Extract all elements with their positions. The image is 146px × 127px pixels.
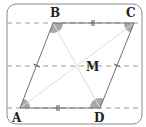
label-b: B bbox=[50, 6, 60, 20]
label-d: D bbox=[94, 111, 104, 125]
label-c: C bbox=[126, 6, 136, 20]
label-a: A bbox=[11, 111, 22, 125]
label-m: M bbox=[86, 60, 99, 74]
parallelogram-diagram: B C M A D bbox=[0, 0, 146, 127]
